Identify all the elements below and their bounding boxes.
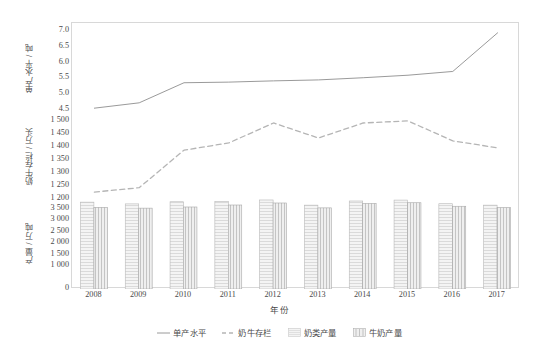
legend-swatch-bar-horizontal-hatch-icon [288, 328, 301, 337]
bar-milk-class-2015 [394, 200, 407, 289]
bar-cow-milk-2016 [452, 206, 465, 289]
ytick-stock-panel-0: 1 200 [51, 194, 69, 202]
ytick-output-panel-1: 1 000 [51, 261, 69, 269]
ytick-yield-panel-1: 5.0 [59, 89, 69, 97]
yaxis-title-stock: 奶牛存栏 / 万头 [24, 113, 35, 199]
ytick-output-panel-3: 2 000 [51, 238, 69, 246]
bar-milk-class-2014 [349, 201, 362, 289]
legend-label-2: 奶类产量 [304, 326, 337, 338]
yaxis-title-yield: 单产水平 / 吨 [24, 26, 35, 110]
solid-line-series [94, 33, 497, 108]
bar-milk-class-2017 [484, 205, 497, 289]
bar-cow-milk-2015 [408, 203, 421, 289]
bar-cow-milk-2010 [184, 207, 197, 289]
legend-item-1[interactable]: 奶牛存栏 [222, 326, 271, 338]
xtick-2015: 2015 [399, 290, 415, 299]
bar-milk-class-2008 [80, 202, 93, 289]
ytick-yield-panel-0: 4.5 [59, 105, 69, 113]
xtick-2013: 2013 [309, 290, 325, 299]
chart-figure: 单产水平 / 吨 奶牛存栏 / 万头 产量 / 万吨 4.55.05.56.06… [0, 0, 559, 350]
bar-cow-milk-2011 [228, 205, 241, 289]
bar-cow-milk-2009 [139, 208, 152, 289]
bar-cow-milk-2008 [94, 207, 107, 289]
line-yield-level [94, 33, 497, 108]
bar-cow-milk-2017 [497, 208, 510, 289]
legend-swatch-line-dashed-icon [222, 328, 235, 337]
xaxis-title: 年份 [0, 303, 559, 315]
xtick-2011: 2011 [220, 290, 236, 299]
ytick-output-panel-2: 1 500 [51, 250, 69, 258]
ytick-output-panel-6: 3 500 [51, 204, 69, 212]
legend-label-1: 奶牛存栏 [238, 326, 271, 338]
bar-milk-class-2013 [304, 205, 317, 289]
bar-milk-class-2012 [260, 200, 273, 289]
yaxis-title-output: 产量 / 万吨 [24, 200, 35, 286]
bar-cow-milk-2014 [363, 203, 376, 289]
legend-label-3: 牛奶产量 [369, 326, 402, 338]
legend-label-0: 单产水平 [173, 326, 206, 338]
plot-canvas [72, 23, 520, 289]
xaxis-ticks: 2008200920102011201220132014201520162017 [71, 290, 519, 304]
ytick-stock-panel-1: 1 250 [51, 181, 69, 189]
ytick-stock-panel-5: 1 450 [51, 129, 69, 137]
ytick-output-panel-0: 0 [65, 284, 69, 292]
xtick-2012: 2012 [264, 290, 280, 299]
plot-area [71, 22, 519, 288]
legend-item-0[interactable]: 单产水平 [157, 326, 206, 338]
bar-milk-class-2009 [125, 204, 138, 289]
bar-cow-milk-2012 [273, 203, 286, 289]
xtick-2017: 2017 [488, 290, 504, 299]
xtick-2008: 2008 [85, 290, 101, 299]
xtick-2014: 2014 [354, 290, 370, 299]
ytick-stock-panel-4: 1 400 [51, 142, 69, 150]
legend-swatch-bar-vertical-hatch-icon [353, 328, 366, 337]
ytick-yield-panel-5: 7.0 [59, 26, 69, 34]
ytick-stock-panel-3: 1 350 [51, 155, 69, 163]
bar-milk-class-2016 [439, 204, 452, 289]
ytick-stock-panel-2: 1 300 [51, 168, 69, 176]
ytick-output-panel-4: 2 500 [51, 227, 69, 235]
legend-swatch-line-solid-icon [157, 328, 170, 337]
chart-legend: 单产水平奶牛存栏奶类产量牛奶产量 [0, 326, 559, 338]
legend-item-2[interactable]: 奶类产量 [288, 326, 337, 338]
ytick-yield-panel-3: 6.0 [59, 58, 69, 66]
xtick-2010: 2010 [175, 290, 191, 299]
xtick-2009: 2009 [130, 290, 146, 299]
ytick-yield-panel-4: 6.5 [59, 42, 69, 50]
bar-milk-class-2010 [170, 202, 183, 289]
bar-milk-class-2011 [215, 201, 228, 289]
bar-series-group [80, 200, 510, 289]
ytick-output-panel-5: 3 000 [51, 215, 69, 223]
ytick-yield-panel-2: 5.5 [59, 73, 69, 81]
bar-cow-milk-2013 [318, 208, 331, 289]
xtick-2016: 2016 [444, 290, 460, 299]
ytick-stock-panel-6: 1 500 [51, 116, 69, 124]
line-cow-stock [94, 121, 497, 192]
legend-item-3[interactable]: 牛奶产量 [353, 326, 402, 338]
dashed-line-series [94, 121, 497, 192]
